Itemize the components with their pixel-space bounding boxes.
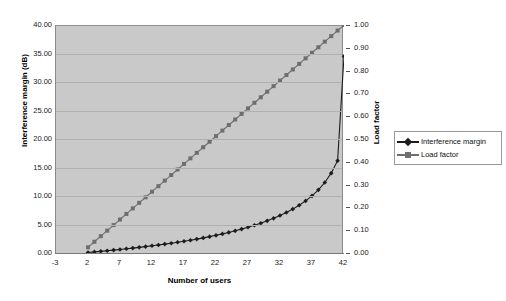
data-point	[297, 62, 301, 66]
data-point	[208, 140, 212, 144]
data-point	[220, 232, 225, 237]
data-point	[220, 129, 224, 133]
data-point	[233, 117, 237, 121]
data-point	[329, 34, 333, 38]
y-axis-right-tick-mark	[346, 116, 350, 117]
x-axis-tick-label: 32	[264, 258, 294, 267]
x-axis-tick-label: 27	[232, 258, 262, 267]
data-point	[137, 245, 142, 250]
data-point	[342, 54, 344, 59]
data-point	[304, 56, 308, 60]
series-interference-margin	[86, 54, 344, 253]
y-axis-right-title: Load factor	[372, 78, 381, 168]
data-point	[201, 236, 206, 241]
y-axis-right-tick-label: 0.20	[354, 203, 398, 211]
data-point	[246, 106, 250, 110]
data-point	[195, 151, 199, 155]
data-point	[175, 240, 180, 245]
gridline	[56, 196, 342, 197]
gridline	[56, 111, 342, 112]
data-point	[207, 234, 212, 239]
data-point	[271, 216, 276, 221]
y-axis-right-tick-mark	[346, 207, 350, 208]
y-axis-right-tick-label: 0.90	[354, 44, 398, 52]
data-point	[284, 210, 289, 215]
data-point	[323, 40, 327, 44]
data-point	[131, 246, 136, 251]
y-axis-right-tick-mark	[346, 185, 350, 186]
data-point	[252, 101, 256, 105]
data-point	[131, 206, 135, 210]
data-point	[336, 29, 340, 33]
data-point	[284, 73, 288, 77]
x-axis-tick-label: 42	[328, 258, 358, 267]
gridline	[56, 82, 342, 83]
data-point	[272, 84, 276, 88]
data-point	[137, 201, 141, 205]
data-point	[188, 156, 192, 160]
y-axis-left-title: Interference margin (dB)	[20, 21, 29, 181]
data-point	[150, 190, 154, 194]
chart-legend: Interference margin Load factor	[394, 131, 502, 165]
y-axis-right-tick-mark	[346, 25, 350, 26]
data-point	[169, 173, 173, 177]
legend-item-interference-margin[interactable]: Interference margin	[397, 135, 498, 148]
data-point	[240, 112, 244, 116]
y-axis-right-tick-mark	[346, 253, 350, 254]
data-point	[201, 145, 205, 149]
y-axis-right-tick-mark	[346, 139, 350, 140]
data-point	[143, 244, 148, 249]
legend-item-load-factor[interactable]: Load factor	[397, 148, 498, 161]
legend-swatch-diamond-icon	[397, 137, 419, 147]
data-point	[342, 25, 344, 27]
y-axis-right-tick-label: 0.30	[354, 181, 398, 189]
data-point	[316, 45, 320, 49]
data-point	[163, 242, 168, 247]
data-point	[239, 227, 244, 232]
data-point	[163, 179, 167, 183]
chart-figure: 0.005.0010.0015.0020.0025.0030.0035.0040…	[0, 0, 506, 301]
y-axis-right-tick-mark	[346, 230, 350, 231]
gridline	[56, 225, 342, 226]
data-point	[259, 95, 263, 99]
y-axis-right-tick-mark	[346, 93, 350, 94]
x-axis-tick-label: 2	[72, 258, 102, 267]
data-point	[86, 245, 90, 249]
x-axis-title: Number of users	[55, 276, 344, 285]
data-point	[118, 218, 122, 222]
data-point	[99, 234, 103, 238]
data-point	[233, 229, 238, 234]
data-point	[214, 233, 219, 238]
data-point	[92, 240, 96, 244]
data-point	[182, 239, 187, 244]
data-point	[118, 247, 123, 252]
data-point	[265, 219, 270, 224]
y-axis-right-tick-mark	[346, 71, 350, 72]
y-axis-right-tick-mark	[346, 48, 350, 49]
x-axis-tick-label: 37	[296, 258, 326, 267]
data-point	[124, 212, 128, 216]
data-point	[195, 237, 200, 242]
y-axis-left-tick-label: 5.00	[2, 221, 52, 229]
data-point	[278, 213, 283, 218]
y-axis-right-tick-label: 0.10	[354, 226, 398, 234]
y-axis-right-tick-label: 0.80	[354, 67, 398, 75]
x-axis-line	[55, 253, 344, 254]
series-load-factor	[86, 25, 344, 249]
x-axis-tick-label: 22	[200, 258, 230, 267]
x-axis-tick-label: -3	[40, 258, 70, 267]
data-point	[111, 248, 116, 253]
legend-label: Interference margin	[419, 137, 486, 146]
x-axis-tick-label: 17	[168, 258, 198, 267]
data-point	[335, 158, 340, 163]
x-axis-tick-label: 12	[136, 258, 166, 267]
gridline	[56, 25, 342, 26]
data-point	[291, 67, 295, 71]
data-point	[227, 123, 231, 127]
legend-label: Load factor	[419, 150, 459, 159]
data-point	[188, 238, 193, 243]
data-point	[291, 207, 296, 212]
data-point	[156, 243, 161, 248]
data-point	[150, 244, 155, 249]
data-point	[214, 134, 218, 138]
